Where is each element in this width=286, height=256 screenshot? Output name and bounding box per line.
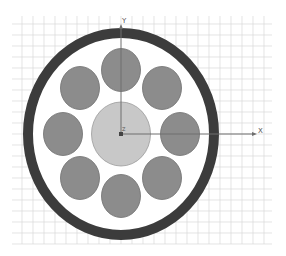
- x-axis-arrow-icon: [252, 132, 257, 136]
- origin-marker: [119, 132, 123, 136]
- strand-bottom-left: [61, 157, 100, 200]
- z-axis-label: Z: [122, 126, 126, 132]
- x-axis-label: X: [258, 127, 263, 135]
- y-axis-label: Y: [121, 17, 127, 25]
- strand-bottom: [102, 175, 141, 218]
- strand-top-right: [143, 67, 182, 110]
- strand-bottom-right: [143, 157, 182, 200]
- strand-left: [44, 113, 83, 156]
- cable-cross-section-diagram: X Y Z: [0, 0, 286, 256]
- strand-top-left: [61, 67, 100, 110]
